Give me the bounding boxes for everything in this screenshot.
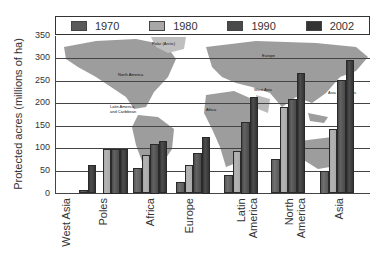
map-label-latin-america: Latin America and Caribbean (110, 104, 136, 114)
bar-latin-america-1970 (224, 175, 233, 194)
y-tick-label: 350 (35, 30, 50, 40)
gridline-150 (55, 126, 370, 127)
bar-poles-1990 (111, 149, 120, 194)
y-tick-label: 100 (35, 142, 50, 152)
map-label-west-asia: West Asia (254, 87, 272, 92)
y-tick-label: 250 (35, 75, 50, 85)
bar-north-america-1970 (271, 159, 280, 194)
bar-north-america-1980 (280, 107, 289, 194)
bar-west-asia-1990 (79, 190, 88, 193)
legend-item-1990: 1990 (227, 20, 275, 32)
y-axis-line (55, 36, 56, 194)
y-tick-label: 150 (35, 120, 50, 130)
legend-label: 1980 (173, 20, 197, 32)
legend-swatch-1980 (149, 21, 165, 31)
bar-europe-1980 (185, 165, 194, 194)
bar-africa-1980 (142, 155, 151, 194)
gridline-200 (55, 103, 370, 104)
x-label-west-asia: West Asia (60, 198, 72, 247)
legend-label: 1970 (95, 20, 119, 32)
legend-item-1970: 1970 (71, 20, 119, 32)
x-label-poles: Poles (97, 198, 109, 226)
y-tick-label: 0 (45, 188, 50, 198)
bar-poles-2002 (120, 149, 129, 194)
y-axis-label: Protected acres (millions of ha) (12, 34, 24, 194)
bar-europe-2002 (202, 137, 211, 193)
x-label-africa: Africa (144, 198, 156, 226)
bar-africa-1970 (133, 168, 142, 194)
legend-swatch-1970 (71, 21, 87, 31)
bar-poles-1980 (103, 149, 112, 194)
bar-africa-1990 (150, 144, 159, 194)
map-label-africa: Africa (206, 107, 216, 112)
bar-asia-1980 (329, 129, 338, 194)
chart: Polar (Arctic) Europe North America Lati… (0, 0, 384, 262)
bar-africa-2002 (159, 141, 168, 194)
bar-latin-america-1980 (233, 151, 242, 193)
map-label-north-america: North America (118, 72, 143, 77)
y-tick-label: 50 (40, 165, 50, 175)
legend-item-2002: 2002 (306, 20, 354, 32)
x-label-north-america: North America (283, 198, 307, 238)
legend-label: 1990 (251, 20, 275, 32)
bar-europe-1970 (176, 182, 185, 194)
bar-north-america-1990 (288, 99, 297, 193)
y-tick-label: 200 (35, 97, 50, 107)
bar-asia-1970 (320, 171, 329, 194)
x-label-europe: Europe (183, 198, 195, 233)
legend-swatch-2002 (306, 21, 322, 31)
bar-north-america-2002 (297, 73, 306, 194)
legend-item-1980: 1980 (149, 20, 197, 32)
bar-asia-2002 (346, 60, 355, 193)
map-label-polar: Polar (Arctic) (152, 41, 175, 46)
bar-asia-1990 (337, 80, 346, 193)
x-label-asia: Asia (333, 198, 345, 219)
gridline-250 (55, 81, 370, 82)
x-label-latin-america: Latin America (235, 198, 259, 238)
bar-latin-america-1990 (241, 122, 250, 194)
gridline-300 (55, 58, 370, 59)
bar-west-asia-2002 (88, 165, 97, 193)
legend-swatch-1990 (227, 21, 243, 31)
bar-europe-1990 (193, 153, 202, 194)
bar-latin-america-2002 (250, 97, 259, 194)
legend: 1970 1980 1990 2002 (55, 16, 370, 35)
legend-label: 2002 (330, 20, 354, 32)
y-tick-label: 300 (35, 52, 50, 62)
